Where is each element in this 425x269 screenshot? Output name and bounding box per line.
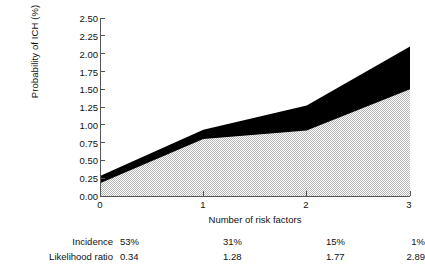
- table-cell: 15%: [326, 234, 374, 249]
- table-cell: 1.77: [326, 249, 374, 264]
- table-row: Incidence 53% 31% 15% 1%: [0, 234, 425, 249]
- x-tick-label: 3: [400, 200, 418, 210]
- x-tick-label: 1: [194, 200, 212, 210]
- table-cell: 0.34: [120, 249, 168, 264]
- figure-root: Probability of ICH (%) 0.00 0.25 0.50 0.…: [0, 0, 425, 269]
- table-row: Likelihood ratio 0.34 1.28 1.77 2.89: [0, 249, 425, 264]
- row-label-likelihood-ratio: Likelihood ratio: [0, 249, 113, 264]
- table-cell: 53%: [120, 234, 168, 249]
- x-tick-label: 2: [297, 200, 315, 210]
- table-cell: 31%: [223, 234, 271, 249]
- area-chart-plot: [0, 0, 425, 232]
- row-label-incidence: Incidence: [0, 234, 113, 249]
- table-cell: 2.89: [377, 249, 425, 264]
- x-axis-label: Number of risk factors: [100, 214, 410, 225]
- summary-table: Incidence 53% 31% 15% 1% Likelihood rati…: [0, 234, 425, 268]
- table-cell: 1%: [377, 234, 425, 249]
- x-tick-label: 0: [91, 200, 109, 210]
- chart-area: Probability of ICH (%) 0.00 0.25 0.50 0.…: [0, 0, 425, 232]
- table-cell: 1.28: [223, 249, 271, 264]
- x-axis-ticks: 0 1 2 3: [0, 200, 425, 214]
